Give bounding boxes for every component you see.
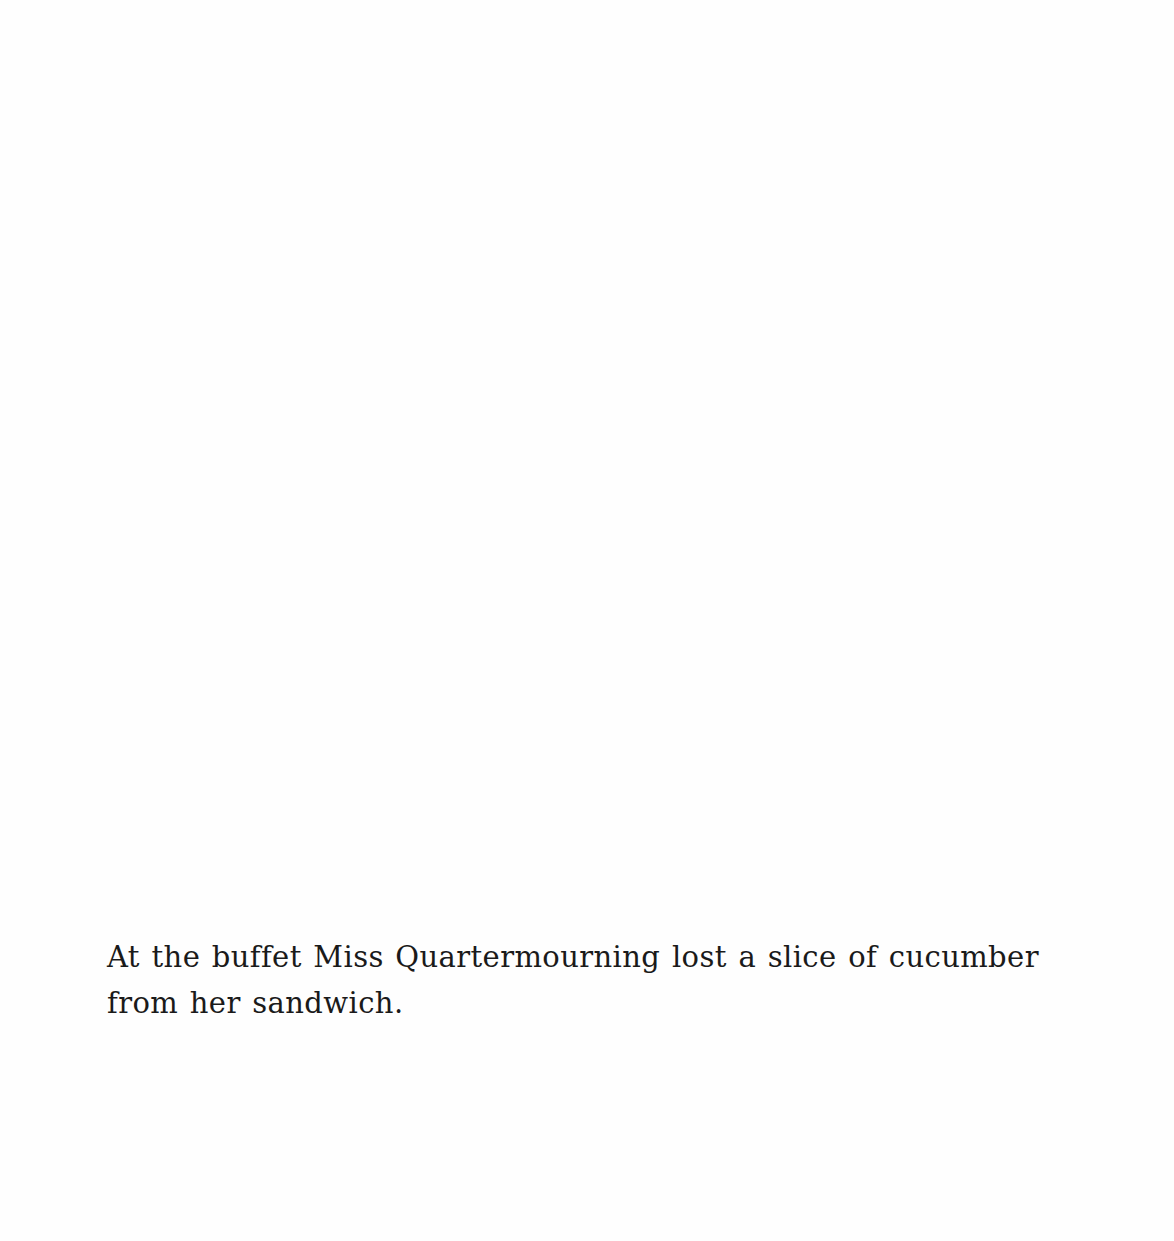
caption-line-2: from her sandwich. bbox=[107, 980, 1147, 1026]
book-page: At the buffet Miss Quartermourning lost … bbox=[0, 0, 1174, 1241]
caption-line-1: At the buffet Miss Quartermourning lost … bbox=[107, 934, 1147, 980]
page-caption: At the buffet Miss Quartermourning lost … bbox=[107, 934, 1147, 1026]
